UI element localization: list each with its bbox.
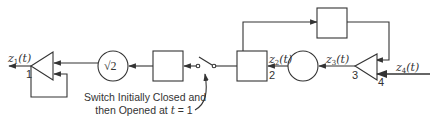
topbox-to-amp3-line [347,22,389,60]
amp1-number: 1 [26,69,32,80]
z3-label: z3(t) [326,54,349,67]
amp3-number: 3 [352,70,358,81]
amp3-input-number: 4 [378,77,384,88]
switch-terminal-right [212,64,216,68]
switch-caption-line1: Switch Initially Closed and [84,91,204,104]
gain-value: √2 [104,60,117,72]
block-box-2 [237,51,267,81]
switch-terminal-left [196,64,200,68]
amplifier-3 [355,54,377,80]
block-box-top [317,8,347,38]
z4-label: z4(t) [396,62,419,75]
block-box-1 [153,51,183,81]
block-diagram [0,0,436,119]
switch-caption: Switch Initially Closed and then Opened … [84,91,204,117]
amplifier-1 [31,52,53,80]
switch-caption-line2: then Opened at t = 1 [84,104,204,117]
z1-label: z1(t) [8,53,31,66]
switch-blade[interactable] [199,57,212,65]
summing-circle [288,51,318,81]
top-loop-line [243,22,317,51]
z2-label: z2(t) [269,54,292,67]
box2-number: 2 [269,70,275,81]
